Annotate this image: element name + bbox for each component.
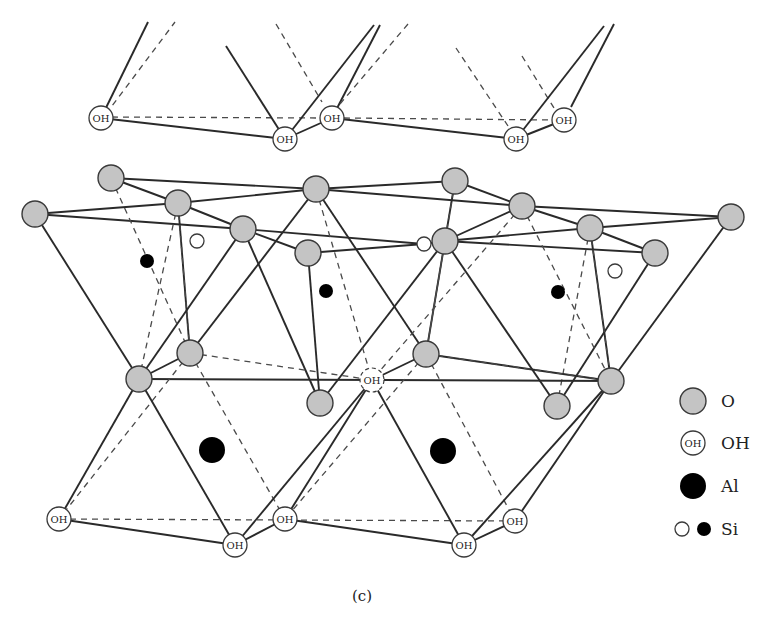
o-atom: [165, 190, 191, 216]
o-atom: [509, 193, 535, 219]
svg-text:OH: OH: [507, 516, 524, 527]
svg-text:OH: OH: [277, 514, 294, 525]
si-open-atom: [608, 264, 622, 278]
o-atom: [432, 228, 458, 254]
oh-atom: OH: [503, 509, 527, 533]
oh-atom: OH: [504, 127, 528, 151]
o-atom: [295, 240, 321, 266]
svg-text:OH: OH: [556, 115, 573, 126]
o-atom: [642, 240, 668, 266]
svg-text:OH: OH: [51, 514, 68, 525]
o-atom: [307, 390, 333, 416]
al-atom: [430, 438, 456, 464]
svg-text:Al: Al: [720, 476, 739, 496]
upper-oh-atoms: OH OH OH OH OH: [89, 106, 576, 151]
o-atom: [577, 215, 603, 241]
silicon-filled-legend-icon: [697, 522, 711, 536]
al-atom: [199, 437, 225, 463]
o-atom: [303, 176, 329, 202]
oh-atom: OH: [223, 533, 247, 557]
legend: O OH OH Al Si: [675, 388, 750, 539]
o-atom: [126, 366, 152, 392]
oh-atom: OH: [320, 106, 344, 130]
o-atom: [98, 165, 124, 191]
svg-text:OH: OH: [227, 540, 244, 551]
svg-text:OH: OH: [277, 134, 294, 145]
o-atom: [544, 393, 570, 419]
figure-caption: (c): [352, 587, 372, 605]
oh-atom-hidden: OH: [360, 368, 384, 392]
silicon-atoms: [140, 234, 622, 299]
si-open-atom: [190, 234, 204, 248]
legend-item-silicon: Si: [675, 519, 739, 539]
svg-text:OH: OH: [324, 113, 341, 124]
o-atom: [442, 168, 468, 194]
svg-text:OH: OH: [721, 433, 750, 453]
legend-item-hydroxyl: OH OH: [681, 431, 750, 455]
legend-item-aluminum: Al: [680, 473, 739, 499]
oh-atom: OH: [452, 533, 476, 557]
oxygen-legend-icon: [680, 388, 706, 414]
svg-text:OH: OH: [508, 134, 525, 145]
o-atom: [22, 201, 48, 227]
oh-atom: OH: [273, 507, 297, 531]
aluminum-legend-icon: [680, 473, 706, 499]
crystal-structure-diagram: OH OH OH OH OH OH: [0, 0, 771, 624]
si-open-atom: [417, 237, 431, 251]
svg-text:OH: OH: [456, 540, 473, 551]
bottom-oh-atoms: OH OH OH OH OH: [47, 507, 527, 557]
svg-text:Si: Si: [721, 519, 739, 539]
silicon-open-legend-icon: [675, 522, 689, 536]
oh-atom: OH: [552, 108, 576, 132]
o-atom: [413, 341, 439, 367]
o-atom: [718, 204, 744, 230]
svg-text:OH: OH: [93, 113, 110, 124]
o-atom: [598, 368, 624, 394]
oh-atom: OH: [273, 127, 297, 151]
o-atom: [230, 216, 256, 242]
o-atom: [177, 340, 203, 366]
si-filled-atom: [140, 254, 154, 268]
oh-atom: OH: [89, 106, 113, 130]
svg-text:OH: OH: [364, 375, 381, 386]
svg-text:O: O: [721, 391, 735, 411]
si-filled-atom: [319, 284, 333, 298]
svg-text:OH: OH: [685, 438, 702, 449]
legend-item-oxygen: O: [680, 388, 735, 414]
upper-layer-bonds: [101, 22, 614, 139]
oh-atom: OH: [47, 507, 71, 531]
si-filled-atom: [551, 285, 565, 299]
